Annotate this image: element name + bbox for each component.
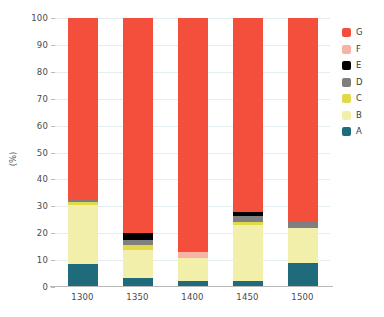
legend-item-C[interactable]: C [342,94,363,103]
bar-segment-E[interactable] [123,233,153,240]
y-axis-tick-label: 100 [18,13,48,23]
legend-item-D[interactable]: D [342,78,363,87]
bar-1400[interactable] [178,18,208,287]
legend-swatch-C [342,94,351,103]
legend-swatch-F [342,45,351,54]
bar-segment-B[interactable] [178,258,208,281]
legend-item-A[interactable]: A [342,127,363,136]
bar-1500[interactable] [288,18,318,287]
bar-segment-G[interactable] [178,18,208,252]
bar-segment-G[interactable] [233,18,263,212]
bar-segment-B[interactable] [123,250,153,278]
bar-segment-B[interactable] [288,228,318,263]
x-axis-line [50,286,333,287]
legend-item-E[interactable]: E [342,61,363,70]
x-axis-tick-label: 1500 [273,292,333,302]
plot-area [55,18,330,287]
bar-1450[interactable] [233,18,263,287]
legend-item-G[interactable]: G [342,28,363,37]
y-axis-title: (%) [8,151,18,166]
legend-swatch-D [342,78,351,87]
bar-segment-G[interactable] [123,18,153,233]
bar-segment-G[interactable] [68,18,98,199]
legend-label-B: B [356,111,362,120]
y-axis-tick-label: 70 [18,94,48,104]
legend-item-F[interactable]: F [342,45,363,54]
bar-segment-G[interactable] [288,18,318,222]
legend-label-E: E [356,61,361,70]
x-axis-tick-label: 1450 [218,292,278,302]
legend-label-F: F [356,45,361,54]
bar-1300[interactable] [68,18,98,287]
y-axis-tick-label: 80 [18,67,48,77]
y-axis-tick-label: 60 [18,121,48,131]
legend-label-G: G [356,28,363,37]
legend-swatch-B [342,111,351,120]
stacked-bar-chart: (%) 0102030405060708090100 1300135014001… [0,0,384,317]
x-axis-tick-label: 1400 [163,292,223,302]
y-axis-tick-label: 50 [18,148,48,158]
x-axis-tick-label: 1300 [53,292,113,302]
legend: GFEDCBA [342,28,363,136]
legend-label-D: D [356,78,363,87]
y-axis-tick-mark [51,287,55,288]
legend-swatch-E [342,61,351,70]
x-axis-tick-label: 1350 [108,292,168,302]
y-axis-tick-label: 90 [18,40,48,50]
bar-1350[interactable] [123,18,153,287]
legend-item-B[interactable]: B [342,111,363,120]
bar-segment-B[interactable] [68,205,98,264]
legend-label-A: A [356,127,362,136]
bar-segment-B[interactable] [233,225,263,281]
legend-label-C: C [356,94,362,103]
y-axis-tick-label: 40 [18,174,48,184]
y-axis-tick-label: 20 [18,228,48,238]
bar-segment-A[interactable] [288,263,318,287]
bar-segment-A[interactable] [68,264,98,287]
y-axis-tick-label: 0 [18,282,48,292]
y-axis-tick-label: 10 [18,255,48,265]
y-axis-tick-label: 30 [18,201,48,211]
legend-swatch-A [342,127,351,136]
legend-swatch-G [342,28,351,37]
